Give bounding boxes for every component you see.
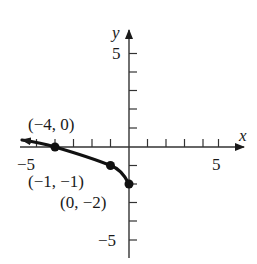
x-tick-label-5: 5 bbox=[212, 155, 221, 174]
x-axis-label: x bbox=[238, 126, 247, 145]
y-tick-label-neg5: −5 bbox=[98, 231, 116, 250]
point-label-neg4-0: (−4, 0) bbox=[28, 115, 74, 134]
y-tick-label-5: 5 bbox=[112, 44, 121, 63]
coordinate-plane: y x −5 5 5 −5 (−4, 0) (−1, −1) (0, −2) bbox=[0, 0, 257, 264]
point-0-neg2 bbox=[125, 180, 134, 189]
point-neg4-0 bbox=[51, 143, 60, 152]
point-label-0-neg2: (0, −2) bbox=[60, 193, 106, 212]
y-axis-label: y bbox=[110, 23, 120, 42]
x-ticks bbox=[37, 139, 219, 147]
point-label-neg1-neg1: (−1, −1) bbox=[28, 172, 84, 191]
point-neg1-neg1 bbox=[106, 161, 115, 170]
